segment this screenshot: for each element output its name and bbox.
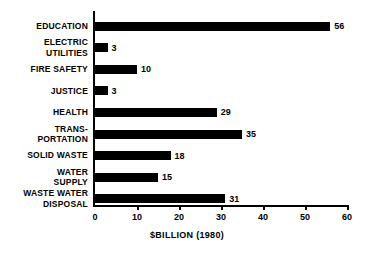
bar xyxy=(95,130,242,139)
x-axis-tick-label: 40 xyxy=(258,212,268,222)
bar xyxy=(95,173,158,182)
bar xyxy=(95,194,225,203)
category-label: WASTE WATER DISPOSAL xyxy=(0,188,88,209)
bar xyxy=(95,151,171,160)
x-axis-tick xyxy=(221,205,223,210)
x-axis-tick xyxy=(347,205,349,210)
x-axis-tick xyxy=(263,205,265,210)
bar xyxy=(95,86,108,95)
bar xyxy=(95,22,330,31)
bar xyxy=(95,43,108,52)
bar-value-label: 3 xyxy=(112,44,117,53)
bar xyxy=(95,65,137,74)
bar-value-label: 18 xyxy=(175,152,185,161)
x-axis-tick xyxy=(137,205,139,210)
bar xyxy=(95,108,217,117)
bar-value-label: 3 xyxy=(112,87,117,96)
category-label: FIRE SAFETY xyxy=(0,64,88,75)
x-axis-tick xyxy=(179,205,181,210)
x-axis-title: $BILLION (1980) xyxy=(0,230,374,240)
category-label: HEALTH xyxy=(0,107,88,118)
category-label: JUSTICE xyxy=(0,86,88,97)
bar-value-label: 10 xyxy=(141,65,151,74)
category-label: TRANS- PORTATION xyxy=(0,124,88,145)
bar-value-label: 15 xyxy=(162,173,172,182)
category-label: SOLID WASTE xyxy=(0,150,88,161)
bar-value-label: 29 xyxy=(221,108,231,117)
x-axis-tick-label: 30 xyxy=(216,212,226,222)
x-axis-tick-label: 60 xyxy=(342,212,352,222)
category-label: ELECTRIC UTILITIES xyxy=(0,37,88,58)
bar-value-label: 31 xyxy=(229,195,239,204)
category-label: WATER SUPPLY xyxy=(0,167,88,188)
category-label-column: EDUCATIONELECTRIC UTILITIESFIRE SAFETYJU… xyxy=(0,0,88,205)
x-axis-tick-label: 50 xyxy=(300,212,310,222)
x-axis-tick-label: 10 xyxy=(132,212,142,222)
category-label: EDUCATION xyxy=(0,21,88,32)
plot-area: 5631032935181531 xyxy=(95,11,365,205)
bar-value-label: 35 xyxy=(246,130,256,139)
x-axis-tick-label: 0 xyxy=(92,212,97,222)
bar-value-label: 56 xyxy=(334,22,344,31)
bar-chart-figure: EDUCATIONELECTRIC UTILITIESFIRE SAFETYJU… xyxy=(0,0,374,257)
x-axis-tick xyxy=(305,205,307,210)
x-axis-tick-label: 20 xyxy=(174,212,184,222)
